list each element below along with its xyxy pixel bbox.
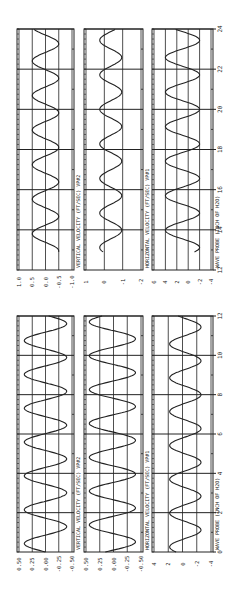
panel-3: 6420-2-4WAVE PROBE (INCH OF H2O) xyxy=(151,29,220,285)
y-tick-label: 0.0 xyxy=(43,277,49,287)
figure: 1.00.50.0-0.5-1.0VERTICAL VELOCITY (FT/S… xyxy=(0,0,244,602)
y-tick-label: -0.25 xyxy=(124,556,130,573)
chart-canvas: 1.00.50.0-0.5-1.0VERTICAL VELOCITY (FT/S… xyxy=(0,0,244,602)
y-tick-label: -0.25 xyxy=(56,556,62,573)
y-tick-label: 0.00 xyxy=(111,557,117,570)
y-tick-label: -4 xyxy=(208,560,214,567)
y-tick-label: 0.00 xyxy=(43,557,49,570)
panel-3: 420-2-4WAVE PROBE (INCH OF H2O) xyxy=(151,316,220,567)
trace-wave-probe xyxy=(165,29,199,252)
y-tick-label: 2 xyxy=(165,562,171,565)
x-tick-label: 18 xyxy=(216,146,223,154)
y-tick-label: -0.50 xyxy=(69,556,75,573)
panel-2: 10-1-2HORIZONTAL VELOCITY (FT/SEC) VP#1 xyxy=(83,29,150,285)
x-tick-label: 20 xyxy=(216,105,223,113)
trace-horizontal-velocity xyxy=(100,29,122,252)
y-tick-label: 0.50 xyxy=(16,557,22,570)
y-tick-label: -1 xyxy=(120,279,126,286)
x-tick-label: 12 xyxy=(216,312,223,320)
x-tick-label: 2 xyxy=(216,510,223,514)
x-tick-label: 22 xyxy=(216,65,223,73)
y-tick-label: 0.50 xyxy=(83,557,89,570)
y-tick-label: -0.5 xyxy=(56,275,62,288)
x-tick-label: 14 xyxy=(216,226,223,234)
y-tick-label: 6 xyxy=(151,280,157,283)
panel-label: VERTICAL VELOCITY (FT/SEC) VP#2 xyxy=(75,175,81,268)
x-tick-label: 24 xyxy=(216,25,223,33)
y-tick-label: 1.0 xyxy=(16,277,22,287)
y-tick-label: -1.0 xyxy=(69,275,75,288)
y-tick-label: -2 xyxy=(194,561,200,568)
panel-label: VERTICAL VELOCITY (FT/SEC) VP#2 xyxy=(75,457,81,550)
x-tick-label: 4 xyxy=(216,471,223,475)
panel-1: 1.00.50.0-0.5-1.0VERTICAL VELOCITY (FT/S… xyxy=(16,29,81,289)
y-tick-label: -0.50 xyxy=(138,556,144,573)
y-tick-label: 2 xyxy=(174,280,180,283)
y-tick-label: 4 xyxy=(162,280,168,284)
y-tick-label: 4 xyxy=(151,562,157,566)
x-tick-label: 16 xyxy=(216,186,223,194)
chart-group-1: 1.00.50.0-0.5-1.0VERTICAL VELOCITY (FT/S… xyxy=(16,25,223,289)
y-tick-label: 0.25 xyxy=(29,557,35,570)
x-tick-label: 0 xyxy=(216,550,223,554)
panel-label: HORIZONTAL VELOCITY (FT/SEC) VP#1 xyxy=(144,451,150,550)
y-tick-label: 0.25 xyxy=(97,557,103,570)
y-tick-label: 0 xyxy=(185,280,191,283)
y-tick-label: -4 xyxy=(208,278,214,285)
panel-2: 0.500.250.00-0.25-0.50HORIZONTAL VELOCIT… xyxy=(83,316,150,572)
x-tick-label: 12 xyxy=(216,266,223,274)
y-tick-label: -2 xyxy=(197,279,203,286)
panel-label: HORIZONTAL VELOCITY (FT/SEC) VP#1 xyxy=(144,169,150,268)
x-tick-label: 10 xyxy=(216,351,223,359)
panel-1: 0.500.250.00-0.25-0.50VERTICAL VELOCITY … xyxy=(16,316,81,572)
chart-group-2: 0.500.250.00-0.25-0.50VERTICAL VELOCITY … xyxy=(16,312,223,572)
x-tick-label: 6 xyxy=(216,432,223,436)
y-tick-label: 0.5 xyxy=(29,277,35,287)
y-tick-label: 1 xyxy=(83,280,89,283)
y-tick-label: -2 xyxy=(138,279,144,286)
y-tick-label: 0 xyxy=(101,280,107,283)
y-tick-label: 0 xyxy=(180,562,186,565)
x-tick-label: 8 xyxy=(216,392,223,396)
